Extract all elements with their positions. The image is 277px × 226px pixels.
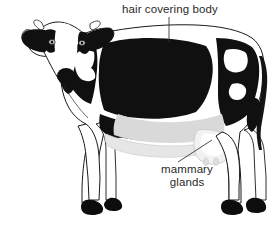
cow-body-group xyxy=(22,17,267,215)
rear-leg-far xyxy=(244,128,266,200)
horn-left xyxy=(34,20,44,30)
label-hair-covering-body: hair covering body xyxy=(122,3,218,16)
label-mammary-line2: glands xyxy=(157,176,217,189)
muzzle xyxy=(57,68,75,84)
patch-midbody xyxy=(99,38,213,119)
horn-right xyxy=(90,21,100,30)
patch-hind-highlight-a xyxy=(224,49,248,72)
cow-illustration xyxy=(0,0,277,226)
label-mammary-glands: mammary glands xyxy=(157,163,217,189)
eye-left-pupil xyxy=(51,41,54,44)
eye-right-pupil xyxy=(81,42,84,45)
hoof-front-near xyxy=(81,200,103,215)
cow-anatomy-diagram: hair covering body mammary glands xyxy=(0,0,277,226)
label-mammary-line1: mammary xyxy=(161,163,213,175)
